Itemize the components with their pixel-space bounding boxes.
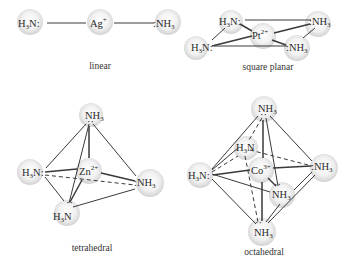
panel-octahedral: NH3 ·· H3N H3N: Co3+ :NH3 ·· NH3 ·· NH3 … [187,96,338,257]
bond-co-right [273,166,311,168]
edge-left [212,28,225,40]
edge-bottom-right [73,189,135,207]
bond-pt-back-right [274,24,310,33]
lone-pair-bottom: ·· [66,197,73,208]
panel-linear: H3N: Ag+ :NH3 linear [17,9,181,71]
caption-tetrahedral: tetrahedral [72,243,113,253]
bond-pt-back-left [240,24,252,31]
edge-top-right [270,116,312,161]
bond-pt-front-left [212,36,252,46]
bond-zn-left [45,169,77,172]
edge-top-back-hidden [249,118,262,140]
caption-square-planar: square planar [243,62,295,72]
coordination-geometry-diagram: H3N: Ag+ :NH3 linear H3N: :NH3 Pt2+ H3N:… [0,0,352,259]
edge-left-bottom [45,177,64,201]
caption-linear: linear [89,61,111,71]
bond-zn-right [101,173,135,181]
bond-co-left [213,170,250,175]
panel-tetrahedral: NH3 ·· H3N: Zn2+ :NH3 ·· H3N tetrahedral [17,103,164,253]
edge-left-back [212,148,238,170]
panel-square-planar: H3N: :NH3 Pt2+ H3N: :NH3 square planar [184,10,331,72]
caption-octahedral: octahedral [244,247,284,257]
lone-pair-top: ·· [260,109,267,120]
lone-pair-top: ·· [87,116,94,127]
